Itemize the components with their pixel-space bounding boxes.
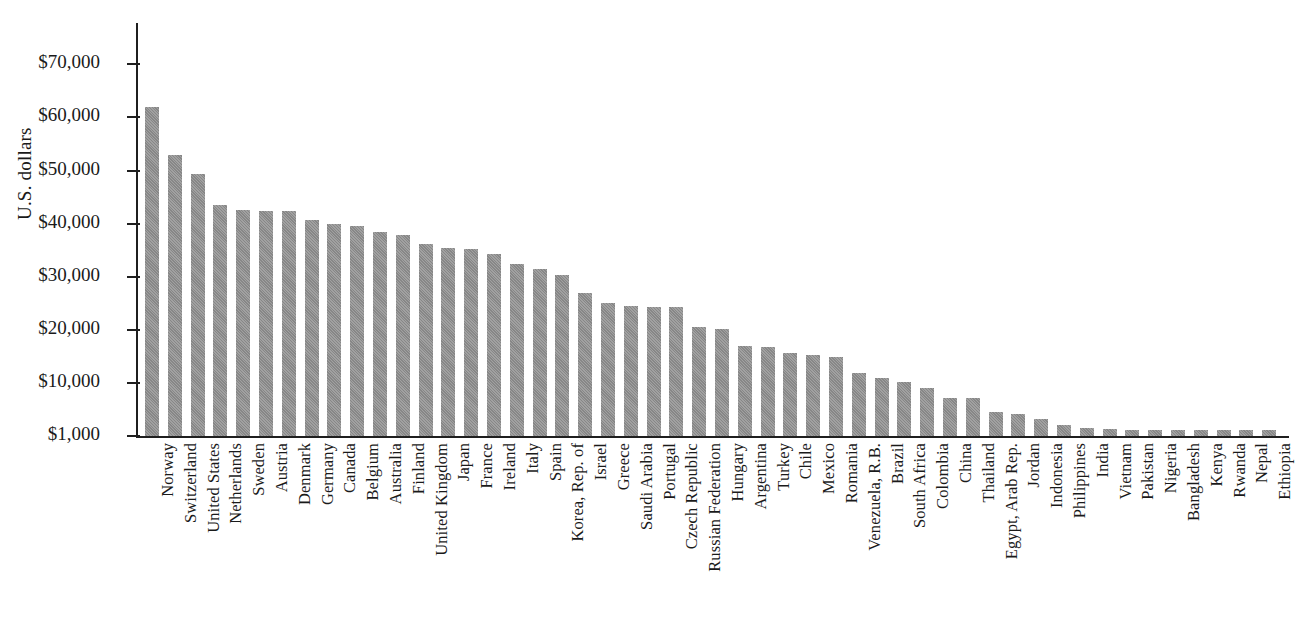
x-axis-label: Israel bbox=[591, 443, 611, 480]
x-axis-label: Saudi Arabia bbox=[637, 443, 657, 530]
x-axis-label: Korea, Rep. of bbox=[568, 443, 588, 542]
bar bbox=[647, 307, 661, 436]
x-axis-label: Belgium bbox=[363, 443, 383, 501]
bar bbox=[533, 269, 547, 436]
bar bbox=[578, 293, 592, 436]
y-tick-mark bbox=[127, 170, 140, 172]
bar bbox=[738, 346, 752, 436]
x-axis-label: Vietnam bbox=[1116, 443, 1136, 500]
bar bbox=[1148, 430, 1162, 436]
x-axis-label: Netherlands bbox=[226, 443, 246, 524]
x-axis-label: Denmark bbox=[295, 443, 315, 505]
bar bbox=[350, 226, 364, 436]
y-tick-label-text: $60,000 bbox=[38, 104, 100, 126]
bar bbox=[555, 275, 569, 436]
y-tick-label-text: $50,000 bbox=[38, 158, 100, 180]
x-axis-label: Thailand bbox=[979, 443, 999, 502]
bar bbox=[852, 373, 866, 436]
y-tick-mark bbox=[127, 329, 140, 331]
bar bbox=[1262, 430, 1276, 436]
bar bbox=[989, 412, 1003, 436]
bar bbox=[145, 107, 159, 436]
y-tick-mark bbox=[127, 63, 140, 65]
x-axis-label: Bangladesh bbox=[1184, 443, 1204, 521]
bar bbox=[419, 244, 433, 436]
y-tick-label-text: $30,000 bbox=[38, 264, 100, 286]
x-axis-label: Nepal bbox=[1252, 443, 1272, 483]
bar bbox=[875, 378, 889, 436]
x-axis-label: Greece bbox=[614, 443, 634, 490]
y-tick-label-text: $40,000 bbox=[38, 211, 100, 233]
x-axis-label: Ireland bbox=[500, 443, 520, 490]
x-axis-label: Romania bbox=[842, 443, 862, 503]
x-axis-label: Colombia bbox=[933, 443, 953, 509]
x-axis-label: Czech Republic bbox=[682, 443, 702, 549]
x-axis-label: India bbox=[1093, 443, 1113, 477]
bar bbox=[669, 307, 683, 436]
x-axis-label: Rwanda bbox=[1230, 443, 1250, 498]
x-axis-label: Turkey bbox=[774, 443, 794, 491]
x-axis-label: Italy bbox=[523, 443, 543, 474]
bar bbox=[1194, 430, 1208, 436]
bar bbox=[920, 388, 934, 436]
y-tick-mark bbox=[127, 382, 140, 384]
bar bbox=[464, 249, 478, 436]
y-tick-mark bbox=[127, 276, 140, 278]
x-axis-label: Austria bbox=[272, 443, 292, 492]
bar bbox=[966, 398, 980, 436]
bar bbox=[761, 347, 775, 436]
bar bbox=[1171, 430, 1185, 436]
x-axis-label: Russian Federation bbox=[705, 443, 725, 572]
bar bbox=[213, 205, 227, 436]
bar bbox=[1217, 430, 1231, 436]
x-axis-label: Portugal bbox=[660, 443, 680, 500]
x-axis-label: Australia bbox=[386, 443, 406, 504]
bar bbox=[783, 353, 797, 436]
bar bbox=[236, 210, 250, 436]
x-axis-label: Chile bbox=[796, 443, 816, 479]
x-axis-label: China bbox=[956, 443, 976, 483]
x-axis-label: Kenya bbox=[1207, 443, 1227, 487]
bar bbox=[1034, 419, 1048, 436]
bar bbox=[305, 220, 319, 436]
x-axis-label: Brazil bbox=[888, 443, 908, 484]
x-axis-label: Pakistan bbox=[1138, 443, 1158, 500]
x-axis-label: Egypt, Arab Rep. bbox=[1002, 443, 1022, 559]
x-axis-label: Nigeria bbox=[1161, 443, 1181, 493]
x-axis-label: Indonesia bbox=[1047, 443, 1067, 508]
y-tick-mark bbox=[127, 435, 140, 437]
bar bbox=[373, 232, 387, 436]
x-axis-label: Mexico bbox=[819, 443, 839, 494]
x-axis-label: Venezuela, R.B. bbox=[865, 443, 885, 551]
x-axis-label: Sweden bbox=[249, 443, 269, 496]
y-tick-label-text: $70,000 bbox=[38, 51, 100, 73]
bar bbox=[806, 355, 820, 436]
bar bbox=[441, 248, 455, 436]
bar bbox=[1080, 428, 1094, 436]
bar bbox=[624, 306, 638, 436]
x-axis-label: United Kingdom bbox=[432, 443, 452, 556]
bar bbox=[259, 211, 273, 436]
x-axis-label: Finland bbox=[409, 443, 429, 494]
bar bbox=[1057, 425, 1071, 436]
y-axis-line bbox=[136, 23, 138, 438]
x-axis-label: Philippines bbox=[1070, 443, 1090, 518]
x-axis-label: Jordan bbox=[1024, 443, 1044, 488]
x-axis-label: Hungary bbox=[728, 443, 748, 501]
y-tick-mark bbox=[127, 223, 140, 225]
x-axis-label: Argentina bbox=[751, 443, 771, 510]
bar bbox=[897, 382, 911, 436]
y-tick-label-text: $20,000 bbox=[38, 317, 100, 339]
y-tick-label-text: $10,000 bbox=[38, 370, 100, 392]
bar bbox=[191, 174, 205, 436]
y-tick-label-text: $1,000 bbox=[48, 423, 100, 445]
bar bbox=[692, 327, 706, 436]
bar bbox=[715, 329, 729, 436]
bar bbox=[943, 398, 957, 436]
bar bbox=[168, 155, 182, 436]
bar bbox=[487, 254, 501, 436]
x-axis-label: United States bbox=[204, 443, 224, 533]
x-axis-label: France bbox=[477, 443, 497, 489]
